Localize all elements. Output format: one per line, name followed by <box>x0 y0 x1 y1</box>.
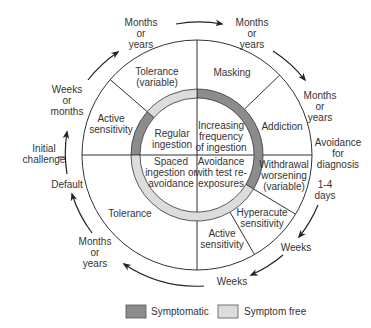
svg-text:Weeks: Weeks <box>281 242 311 253</box>
ring-symptomatic-left <box>131 112 154 155</box>
addiction-cycle-diagram: Tolerance (variable) Masking Addiction W… <box>0 0 371 328</box>
svg-text:with test re-: with test re- <box>194 167 247 178</box>
svg-text:Weeks: Weeks <box>217 276 247 287</box>
svg-text:Tolerance: Tolerance <box>108 208 152 219</box>
svg-text:Withdrawal: Withdrawal <box>259 159 308 170</box>
label-avoidance-for-diagnosis: Avoidance for diagnosis <box>315 137 362 170</box>
label-initial-challenge: Initial challenge <box>23 143 66 165</box>
svg-text:ingestion or: ingestion or <box>145 167 197 178</box>
arrow-initial-challenge <box>65 132 67 174</box>
arrow-top-right <box>273 51 305 80</box>
svg-text:or: or <box>91 247 101 258</box>
svg-text:Default: Default <box>51 179 83 190</box>
arrow-top <box>176 22 222 24</box>
svg-text:Tolerance: Tolerance <box>135 66 179 77</box>
svg-text:Spaced: Spaced <box>154 156 188 167</box>
svg-text:sensitivity: sensitivity <box>200 239 243 250</box>
legend: Symptomatic Symptom free <box>126 305 307 318</box>
svg-text:Weeks: Weeks <box>52 84 82 95</box>
segment-tolerance-variable: Tolerance (variable) <box>135 66 179 88</box>
svg-text:(variable): (variable) <box>263 181 305 192</box>
svg-text:years: years <box>308 112 332 123</box>
svg-text:Masking: Masking <box>213 67 250 78</box>
svg-text:Avoidance: Avoidance <box>198 156 245 167</box>
svg-text:days: days <box>314 190 335 201</box>
label-right-months: Months or years <box>304 90 337 123</box>
label-one-four-days: 1-4 days <box>314 179 335 201</box>
svg-text:Avoidance: Avoidance <box>315 137 362 148</box>
segment-tolerance: Tolerance <box>108 208 152 219</box>
legend-swatch-symptomatic <box>126 305 146 318</box>
svg-text:Increasing: Increasing <box>198 120 244 131</box>
svg-text:sensitivity: sensitivity <box>240 218 283 229</box>
arrow-bottom-left <box>72 194 92 233</box>
segment-withdrawal-worsening: Withdrawal worsening (variable) <box>259 159 308 192</box>
svg-text:Months: Months <box>236 17 269 28</box>
quadrant-regular-ingestion: Regular ingestion <box>152 128 192 150</box>
svg-text:years: years <box>129 39 153 50</box>
svg-text:years: years <box>240 39 264 50</box>
svg-text:challenge: challenge <box>23 154 66 165</box>
label-weeks-right: Weeks <box>281 242 311 253</box>
svg-text:months: months <box>51 106 84 117</box>
svg-text:for: for <box>332 148 344 159</box>
svg-text:or: or <box>63 95 73 106</box>
arrow-days <box>299 205 318 237</box>
svg-text:of ingestion: of ingestion <box>195 142 246 153</box>
quadrant-spaced-ingestion: Spaced ingestion or avoidance <box>145 156 197 189</box>
svg-text:frequency: frequency <box>199 131 243 142</box>
svg-text:or: or <box>137 28 147 39</box>
legend-label-symptomatic: Symptomatic <box>151 306 209 317</box>
svg-text:ingestion: ingestion <box>152 139 192 150</box>
svg-text:sensitivity: sensitivity <box>89 124 132 135</box>
svg-text:Months: Months <box>79 236 112 247</box>
svg-text:Initial: Initial <box>32 143 55 154</box>
label-top-right-months: Months or years <box>236 17 269 50</box>
svg-text:(variable): (variable) <box>136 77 178 88</box>
label-top-left-months: Months or years <box>125 17 158 50</box>
svg-text:avoidance: avoidance <box>148 178 194 189</box>
segment-masking: Masking <box>213 67 250 78</box>
segment-active-sensitivity-lower: Active sensitivity <box>200 228 243 250</box>
label-bottom-left-months: Months or years <box>79 236 112 269</box>
svg-text:worsening: worsening <box>260 170 307 181</box>
svg-text:Addiction: Addiction <box>261 121 302 132</box>
svg-text:Active: Active <box>208 228 236 239</box>
svg-text:years: years <box>83 258 107 269</box>
quadrant-increasing-frequency: Increasing frequency of ingestion <box>195 120 246 153</box>
svg-text:or: or <box>248 28 258 39</box>
svg-text:Months: Months <box>304 90 337 101</box>
svg-text:Hyperacute: Hyperacute <box>236 207 288 218</box>
arrow-weeks <box>251 255 283 275</box>
quadrant-avoidance-test: Avoidance with test re- exposures <box>194 156 247 189</box>
spoke-upper-right <box>245 75 280 109</box>
label-weeks-bottom: Weeks <box>217 276 247 287</box>
svg-text:Months: Months <box>125 17 158 28</box>
svg-text:diagnosis: diagnosis <box>317 159 359 170</box>
segment-active-sensitivity-upper: Active sensitivity <box>89 113 132 135</box>
segment-hyperacute-sensitivity: Hyperacute sensitivity <box>236 207 288 229</box>
svg-text:Regular: Regular <box>154 128 190 139</box>
segment-addiction: Addiction <box>261 121 302 132</box>
svg-text:or: or <box>316 101 326 112</box>
svg-text:Active: Active <box>97 113 125 124</box>
svg-text:exposures: exposures <box>198 178 244 189</box>
arrow-bottom <box>124 264 204 286</box>
legend-label-symptom-free: Symptom free <box>244 306 307 317</box>
label-default: Default <box>51 179 83 190</box>
svg-text:1-4: 1-4 <box>318 179 333 190</box>
legend-swatch-symptom-free <box>218 305 238 318</box>
label-weeks-or-months: Weeks or months <box>51 84 84 117</box>
ring-symptom-free-top-left <box>147 89 197 118</box>
